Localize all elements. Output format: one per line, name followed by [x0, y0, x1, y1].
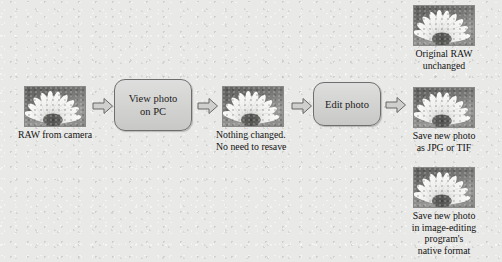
process-view-photo-label: View photo on PC — [129, 92, 178, 118]
photo-original-raw — [413, 5, 475, 46]
process-view-photo[interactable]: View photo on PC — [114, 79, 192, 131]
photo-nothing-changed — [222, 86, 284, 127]
arrow-right-icon-1 — [92, 97, 114, 115]
arrow-right-icon-4 — [385, 96, 407, 114]
arrow-right-icon-3 — [291, 97, 313, 115]
caption-save-jpg-tif: Save new photo as JPG or TIF — [395, 130, 493, 153]
process-edit-photo[interactable]: Edit photo — [313, 82, 381, 126]
arrow-right-icon-2 — [197, 97, 219, 115]
photo-save-native-format — [413, 167, 475, 208]
photo-save-jpg-tif — [413, 87, 475, 128]
diagram-canvas: RAW from camera View photo on PC Nothing… — [0, 0, 502, 262]
caption-save-native-format: Save new photo in image-editing program'… — [395, 210, 493, 256]
photo-raw-from-camera — [24, 86, 86, 127]
caption-nothing-changed: Nothing changed. No need to resave — [210, 129, 326, 152]
caption-raw-from-camera: RAW from camera — [4, 129, 106, 141]
process-edit-photo-label: Edit photo — [325, 98, 369, 111]
caption-original-raw: Original RAW unchanged — [395, 48, 493, 71]
